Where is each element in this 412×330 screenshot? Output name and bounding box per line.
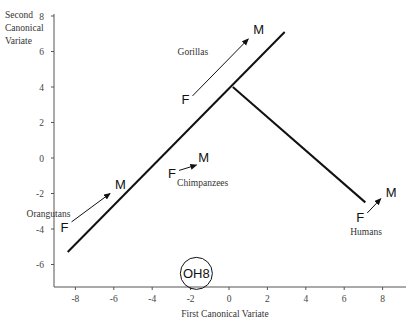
male-marker-label: M — [198, 150, 209, 165]
male-marker-label: M — [253, 22, 264, 37]
main-axis-line — [68, 32, 285, 252]
female-marker-label: F — [61, 220, 69, 235]
x-ticks: -8-6-4-202468 — [71, 287, 385, 304]
species-label: Gorillas — [178, 47, 209, 57]
group-gorillas: FMGorillas — [178, 22, 265, 107]
y-tick-label: 6 — [39, 47, 44, 57]
y-tick-label: 8 — [39, 12, 44, 22]
annotations: OH8 — [180, 257, 212, 289]
group-humans: FMHumans — [350, 185, 396, 237]
y-tick-label: 0 — [39, 154, 44, 164]
y-ticks: 86420-2-4-6 — [36, 12, 54, 271]
species-label: Chimpanzees — [177, 178, 228, 188]
species-label: Humans — [350, 227, 382, 237]
x-tick-label: -8 — [71, 294, 79, 304]
x-tick-label: -4 — [148, 294, 156, 304]
female-marker-label: F — [168, 166, 176, 181]
x-tick-label: -2 — [187, 294, 195, 304]
x-tick-label: 4 — [303, 294, 308, 304]
female-marker-label: F — [182, 92, 190, 107]
group-chimpanzees: FMChimpanzees — [168, 150, 228, 188]
x-tick-label: 6 — [342, 294, 347, 304]
y-tick-label: 2 — [39, 118, 44, 128]
chart-canvas: 86420-2-4-6 -8-6-4-202468 FMGorillasFMOr… — [0, 0, 412, 330]
y-tick-label: -4 — [36, 225, 44, 235]
y-tick-label: 4 — [39, 83, 44, 93]
y-tick-label: -2 — [36, 189, 44, 199]
female-to-male-arrow — [179, 165, 196, 170]
species-label: Orangutans — [27, 209, 71, 219]
x-tick-label: 0 — [227, 294, 232, 304]
male-marker-label: M — [386, 185, 397, 200]
x-tick-label: 2 — [265, 294, 270, 304]
female-to-male-arrow — [367, 199, 380, 213]
trend-lines — [68, 32, 366, 252]
male-marker-label: M — [115, 177, 126, 192]
x-axis-label: First Canonical Variate — [0, 309, 412, 319]
human-branch-line — [233, 87, 365, 202]
x-tick-label: -6 — [110, 294, 118, 304]
female-marker-label: F — [356, 210, 364, 225]
oh8-label: OH8 — [183, 266, 210, 281]
x-tick-label: 8 — [380, 294, 385, 304]
species-groups: FMGorillasFMOrangutansFMChimpanzeesFMHum… — [27, 22, 397, 237]
y-tick-label: -6 — [36, 260, 44, 270]
female-to-male-arrow — [72, 194, 110, 222]
